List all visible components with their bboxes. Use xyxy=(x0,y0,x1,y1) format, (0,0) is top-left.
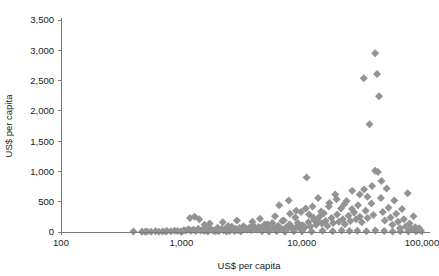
data-point xyxy=(233,216,241,224)
data-point xyxy=(275,201,283,209)
data-point xyxy=(346,227,354,235)
data-point xyxy=(368,182,376,190)
x-axis-ticks: 1001,00010,000100,000 xyxy=(53,232,439,248)
data-point xyxy=(385,204,393,212)
data-point xyxy=(303,173,311,181)
y-tick-label: 3,500 xyxy=(30,14,54,25)
y-tick-label: 2,500 xyxy=(30,75,54,86)
x-tick-label: 100 xyxy=(53,237,69,248)
data-point xyxy=(375,92,383,100)
data-point xyxy=(365,120,373,128)
data-point xyxy=(404,189,412,197)
scatter-chart: 05001,0001,5002,0002,5003,0003,500 1001,… xyxy=(0,0,439,276)
y-tick-label: 1,500 xyxy=(30,136,54,147)
y-tick-label: 2,000 xyxy=(30,105,54,116)
data-point xyxy=(371,227,379,235)
data-point xyxy=(256,215,264,223)
data-point xyxy=(390,197,398,205)
data-point xyxy=(353,227,361,235)
data-point xyxy=(319,227,327,235)
data-point xyxy=(354,201,362,209)
data-point xyxy=(348,187,356,195)
data-point xyxy=(389,227,397,235)
data-point xyxy=(362,227,370,235)
data-point xyxy=(329,227,337,235)
x-tick-label: 10,000 xyxy=(287,237,316,248)
y-axis-title: US$ per capita xyxy=(3,94,14,158)
plot-area: 05001,0001,5002,0002,5003,0003,500 1001,… xyxy=(0,0,439,276)
data-point xyxy=(377,194,385,202)
data-point xyxy=(373,70,381,78)
data-point xyxy=(380,227,388,235)
data-markers xyxy=(129,49,424,236)
data-point xyxy=(362,207,370,215)
x-tick-label: 100,000 xyxy=(405,237,439,248)
data-point xyxy=(377,177,385,185)
data-point xyxy=(308,203,316,211)
y-tick-label: 3,000 xyxy=(30,45,54,56)
data-point xyxy=(371,49,379,57)
y-tick-label: 1,000 xyxy=(30,166,54,177)
data-point xyxy=(363,193,371,201)
data-point xyxy=(367,200,375,208)
data-point xyxy=(398,205,406,213)
data-point xyxy=(379,208,387,216)
y-tick-label: 500 xyxy=(38,196,54,207)
data-point xyxy=(314,194,322,202)
data-point xyxy=(360,74,368,82)
data-point xyxy=(409,212,417,220)
data-point xyxy=(383,184,391,192)
x-axis-title: US$ per capita xyxy=(218,260,282,271)
data-point xyxy=(285,197,293,205)
x-tick-label: 1,000 xyxy=(169,237,193,248)
y-tick-label: 0 xyxy=(49,226,54,237)
y-axis-ticks: 05001,0001,5002,0002,5003,0003,500 xyxy=(30,14,61,237)
